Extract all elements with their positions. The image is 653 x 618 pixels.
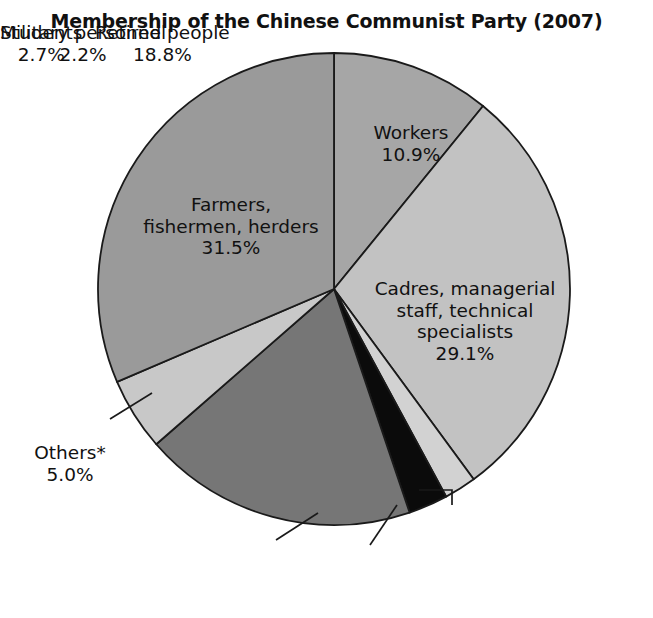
slice-label-military: Military personnel 2.2% [0,0,166,87]
slice-label-farmers: Farmers, fishermen, herders 31.5% [128,172,334,281]
slice-label-farmers-text: Farmers, fishermen, herders [143,194,318,237]
slice-label-farmers-value: 31.5% [128,237,334,259]
slice-label-others: Others* 5.0% [14,420,126,507]
slice-label-cadres-text: Cadres, managerial staff, technical spec… [375,278,556,343]
slice-label-others-text: Others* [34,442,105,463]
slice-label-others-value: 5.0% [14,464,126,486]
slice-label-workers-text: Workers [374,122,449,143]
slice-label-cadres-value: 29.1% [358,343,572,365]
slice-label-military-text: Military personnel [0,22,166,43]
slice-label-cadres: Cadres, managerial staff, technical spec… [358,256,572,387]
pie-chart-figure: Membership of the Chinese Communist Part… [0,0,653,618]
slice-label-workers-value: 10.9% [336,144,486,166]
slice-label-military-value: 2.2% [0,44,166,66]
slice-label-workers: Workers 10.9% [336,100,486,187]
